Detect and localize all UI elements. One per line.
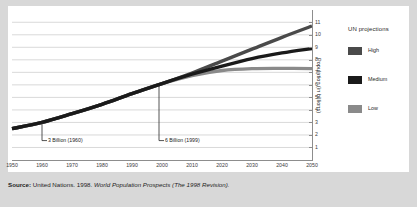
y-axis-title: Population (in billions) <box>316 58 322 113</box>
y-tick-label: 2 <box>315 132 318 137</box>
y-tick-label: 9 <box>315 45 318 50</box>
chart-annotation-2: 6 Billion (1999) <box>165 138 200 143</box>
x-tick-label: 2030 <box>246 163 258 168</box>
x-tick-label: 2000 <box>156 163 168 168</box>
legend-item-label: Low <box>368 106 378 111</box>
y-axis-line <box>312 10 313 160</box>
y-tick-mark <box>309 135 312 136</box>
legend-items: HighMediumLow <box>348 46 412 113</box>
y-tick-mark <box>309 85 312 86</box>
source-citation: Source: United Nations. 1998. World Popu… <box>8 182 230 188</box>
x-tick-label: 1970 <box>66 163 78 168</box>
source-title: World Population Prospects (The 1998 Rev… <box>94 181 230 188</box>
y-tick-label: 10 <box>315 32 321 37</box>
population-projection-figure: 1234567891011 19501960197019801990200020… <box>0 0 417 207</box>
legend-item-medium[interactable]: Medium <box>348 75 412 84</box>
x-tick-label: 1960 <box>36 163 48 168</box>
x-tick-label: 1990 <box>126 163 138 168</box>
x-tick-label: 2010 <box>186 163 198 168</box>
y-tick-label: 11 <box>315 20 320 25</box>
chart-canvas <box>8 6 313 158</box>
source-text: United Nations. 1998. <box>31 181 94 188</box>
legend-swatch-icon <box>348 76 362 84</box>
y-tick-mark <box>309 47 312 48</box>
chart-annotation-1: 3 Billion (1960) <box>48 138 83 143</box>
legend-swatch-icon <box>348 47 362 55</box>
y-tick-mark <box>309 35 312 36</box>
y-tick-label: 1 <box>315 145 318 150</box>
legend: UN projections HighMediumLow <box>348 26 412 133</box>
x-tick-label: 1980 <box>96 163 108 168</box>
legend-item-label: Medium <box>368 77 387 82</box>
y-tick-label: 3 <box>315 120 318 125</box>
y-tick-mark <box>309 110 312 111</box>
legend-item-low[interactable]: Low <box>348 104 412 113</box>
plot-area <box>8 6 313 158</box>
y-tick-mark <box>309 97 312 98</box>
y-tick-mark <box>309 122 312 123</box>
x-tick-label: 1950 <box>6 163 18 168</box>
annotation-leaders <box>42 85 164 141</box>
x-tick-label: 2050 <box>306 163 318 168</box>
x-tick-label: 2040 <box>276 163 288 168</box>
legend-title: UN projections <box>348 26 412 32</box>
y-tick-mark <box>309 147 312 148</box>
x-tick-label: 2020 <box>216 163 228 168</box>
legend-swatch-icon <box>348 105 362 113</box>
y-tick-mark <box>309 72 312 73</box>
y-tick-mark <box>309 22 312 23</box>
y-tick-mark <box>309 60 312 61</box>
legend-item-label: High <box>368 48 379 53</box>
source-lead: Source: <box>8 181 31 188</box>
series-lines <box>12 26 312 129</box>
legend-item-high[interactable]: High <box>348 46 412 55</box>
x-axis-line <box>12 160 313 161</box>
